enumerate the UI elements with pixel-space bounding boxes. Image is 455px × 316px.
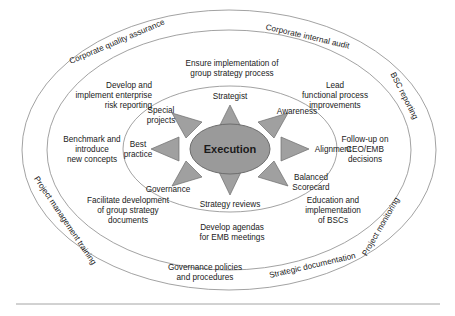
arrow-west bbox=[151, 137, 179, 161]
svg-text:Governance policies: Governance policies bbox=[168, 263, 242, 272]
svg-text:Best: Best bbox=[130, 140, 147, 149]
middle-label-benchmark-introduce: Benchmark and introduce new concepts bbox=[63, 135, 121, 164]
svg-text:Ensure implementation of: Ensure implementation of bbox=[186, 59, 280, 68]
svg-text:practice: practice bbox=[124, 150, 153, 159]
svg-text:Facilitate development: Facilitate development bbox=[87, 196, 170, 205]
core-label: Execution bbox=[204, 143, 257, 155]
middle-label-develop-implement-enterprise: Develop and implement enterprise risk re… bbox=[76, 81, 153, 110]
diagram-canvas: Execution Strategist Awareness Alignment… bbox=[0, 0, 455, 316]
svg-text:group strategy process: group strategy process bbox=[190, 69, 273, 78]
outer-label-bsc-reporting: BSC reporting bbox=[389, 71, 421, 121]
middle-label-facilitate-development: Facilitate development of group strategy… bbox=[87, 196, 170, 225]
svg-text:Scorecard: Scorecard bbox=[292, 183, 330, 192]
outer-label-project-management-training: Project management training bbox=[32, 175, 98, 267]
svg-text:improvements: improvements bbox=[309, 101, 360, 110]
svg-text:Benchmark and: Benchmark and bbox=[63, 135, 121, 144]
middle-label-follow-up-ceo-emb: Follow-up on CEO/EMB decisions bbox=[342, 135, 389, 164]
svg-text:Lead: Lead bbox=[326, 81, 345, 90]
svg-text:projects: projects bbox=[147, 116, 176, 125]
svg-text:Develop and: Develop and bbox=[106, 81, 152, 90]
svg-text:implementation: implementation bbox=[305, 206, 361, 215]
svg-text:decisions: decisions bbox=[348, 155, 382, 164]
svg-text:new concepts: new concepts bbox=[67, 155, 117, 164]
svg-text:of group strategy: of group strategy bbox=[97, 206, 159, 215]
svg-text:for EMB meetings: for EMB meetings bbox=[199, 233, 264, 242]
outer-label-project-monitoring: Project monitoring bbox=[360, 196, 401, 258]
svg-text:implement enterprise: implement enterprise bbox=[76, 91, 153, 100]
outer-label-strategic-documentation: Strategic documentation bbox=[268, 251, 356, 280]
inner-label-governance: Governance bbox=[146, 185, 191, 194]
middle-label-ensure-implementation: Ensure implementation of group strategy … bbox=[186, 59, 280, 78]
svg-text:Balanced: Balanced bbox=[294, 173, 329, 182]
middle-label-education-implementation-bscs: Education and implementation of BSCs bbox=[305, 196, 361, 225]
svg-text:introduce: introduce bbox=[75, 145, 109, 154]
outer-label-corporate-internal-audit: Corporate internal audit bbox=[265, 23, 351, 51]
arrow-east bbox=[281, 137, 309, 161]
svg-text:risk reporting: risk reporting bbox=[105, 101, 153, 110]
svg-text:of BSCs: of BSCs bbox=[318, 216, 348, 225]
svg-text:CEO/EMB: CEO/EMB bbox=[346, 145, 384, 154]
svg-text:Follow-up on: Follow-up on bbox=[342, 135, 389, 144]
svg-text:documents: documents bbox=[108, 216, 148, 225]
middle-label-develop-agendas: Develop agendas for EMB meetings bbox=[199, 223, 264, 242]
svg-text:and procedures: and procedures bbox=[177, 273, 234, 282]
svg-text:Education and: Education and bbox=[307, 196, 360, 205]
arrow-southeast bbox=[258, 161, 288, 186]
arrow-southwest bbox=[172, 161, 202, 186]
inner-label-best-practice: Best practice bbox=[124, 140, 153, 159]
inner-label-strategist: Strategist bbox=[213, 92, 248, 101]
inner-label-strategy-reviews: Strategy reviews bbox=[200, 200, 261, 209]
svg-text:functional process: functional process bbox=[302, 91, 368, 100]
outer-label-governance-policies: Governance policies and procedures bbox=[168, 263, 242, 282]
middle-label-lead-functional-process: Lead functional process improvements bbox=[302, 81, 368, 110]
inner-label-balanced-scorecard: Balanced Scorecard bbox=[292, 173, 330, 192]
svg-text:Develop agendas: Develop agendas bbox=[200, 223, 264, 232]
